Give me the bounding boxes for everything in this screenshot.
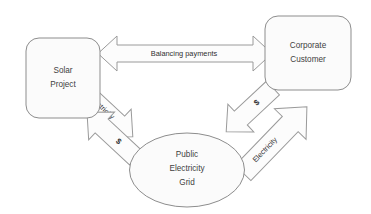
diagram-svg: Balancing payments Electricity $ $ Elect… [0, 0, 371, 214]
solar-project-shape [26, 38, 100, 118]
public-electricity-grid-label-line2: Electricity [169, 164, 205, 173]
corporate-customer-label-line2: Customer [290, 55, 326, 64]
corporate-customer-shape [265, 16, 351, 90]
arrow-balancing-payments: Balancing payments [98, 36, 272, 71]
public-electricity-grid-label-line1: Public [176, 150, 198, 159]
corporate-customer-label-line1: Corporate [290, 41, 327, 50]
node-corporate-customer[interactable]: Corporate Customer [265, 16, 351, 90]
diagram-canvas: Balancing payments Electricity $ $ Elect… [0, 0, 371, 214]
solar-project-label-line1: Solar [53, 66, 72, 75]
public-electricity-grid-label-line3: Grid [179, 178, 195, 187]
node-public-electricity-grid[interactable]: Public Electricity Grid [130, 133, 245, 207]
solar-project-label-line2: Project [50, 80, 76, 89]
balancing-payments-label: Balancing payments [151, 49, 218, 58]
node-solar-project[interactable]: Solar Project [26, 38, 100, 118]
